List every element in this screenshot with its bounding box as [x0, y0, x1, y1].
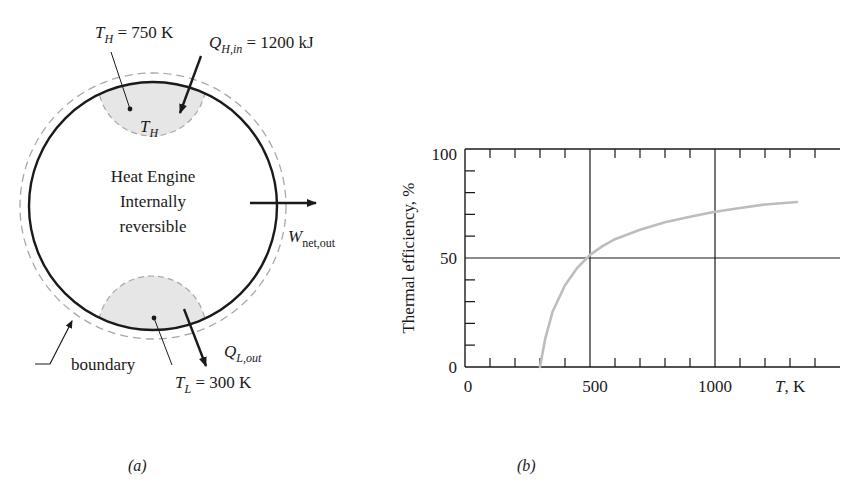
y-axis-label: Thermal efficiency, % — [399, 182, 418, 333]
tl-label: TL = 300 K — [175, 373, 252, 396]
th-point-dot — [128, 107, 133, 112]
caption-b: (b) — [517, 457, 536, 475]
x-tick-1000: 1000 — [698, 377, 732, 396]
y-tick-100: 100 — [432, 145, 458, 164]
engine-title: Heat Engine — [111, 167, 196, 186]
efficiency-chart: 100 50 0 0 500 1000 T, K Thermal efficie… — [399, 145, 840, 475]
x-tick-500: 500 — [582, 377, 608, 396]
engine-subtitle-1: Internally — [120, 192, 187, 211]
figure-canvas: TH = 750 K QH,in = 1200 kJ TH Heat Engin… — [0, 0, 863, 502]
qh-label: QH,in = 1200 kJ — [209, 33, 314, 56]
heat-engine-diagram: TH = 750 K QH,in = 1200 kJ TH Heat Engin… — [20, 23, 336, 475]
x-tick-0: 0 — [464, 377, 473, 396]
tl-point-dot — [152, 316, 157, 321]
y-tick-0: 0 — [449, 358, 458, 377]
boundary-pointer — [35, 321, 72, 364]
y-tick-50: 50 — [440, 249, 457, 268]
th-label: TH = 750 K — [95, 23, 174, 46]
boundary-label: boundary — [71, 355, 136, 374]
ql-label: QL,out — [224, 342, 262, 365]
engine-subtitle-2: reversible — [119, 217, 186, 236]
x-axis-label: T, K — [775, 377, 806, 396]
efficiency-curve — [540, 202, 797, 367]
caption-a: (a) — [128, 457, 147, 475]
w-net-label: Wnet,out — [288, 227, 336, 250]
